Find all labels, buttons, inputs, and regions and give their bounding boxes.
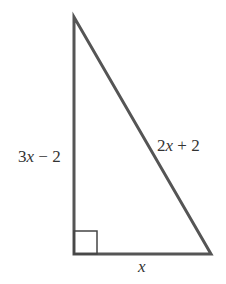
base-label: x xyxy=(137,257,146,276)
triangle-diagram: 3x − 2 2x + 2 x xyxy=(0,0,226,284)
hypotenuse-label: 2x + 2 xyxy=(157,136,200,155)
right-angle-marker xyxy=(74,231,97,254)
left-side-label: 3x − 2 xyxy=(18,147,61,166)
